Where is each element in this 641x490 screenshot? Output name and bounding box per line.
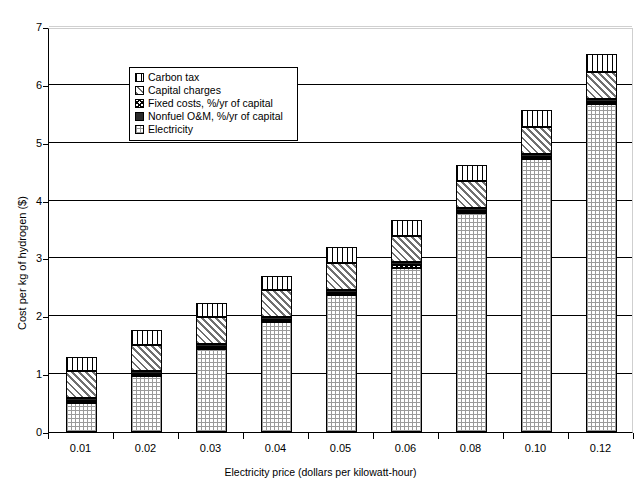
legend-item: Nonfuel O&M, %/yr of capital <box>135 110 293 122</box>
bar-segment <box>456 165 487 182</box>
bar-segment <box>196 303 227 317</box>
bar-segment <box>586 102 617 104</box>
legend-swatch-carbon <box>135 73 144 82</box>
bar-segment <box>586 99 617 102</box>
y-tick-label: 4 <box>8 196 42 207</box>
bar-segment <box>456 211 487 213</box>
x-axis-title: Electricity price (dollars per kilowatt-… <box>0 466 641 478</box>
x-tick-mark <box>568 433 569 439</box>
x-tick-label: 0.03 <box>181 442 241 454</box>
y-tick-label: 0 <box>8 427 42 438</box>
bar-segment <box>586 54 617 72</box>
bar-segment <box>521 110 552 127</box>
x-tick-label: 0.06 <box>376 442 436 454</box>
bar-segment <box>131 330 162 344</box>
bar-segment <box>391 262 422 265</box>
bar-segment <box>131 374 162 376</box>
y-tick-label: 5 <box>8 138 42 149</box>
bar-segment <box>196 347 227 349</box>
x-tick-label: 0.08 <box>441 442 501 454</box>
bar-segment <box>196 317 227 344</box>
bar-segment <box>66 357 97 371</box>
bar-segment <box>261 320 292 322</box>
legend-item: Carbon tax <box>135 71 293 83</box>
legend-label: Fixed costs, %/yr of capital <box>148 98 273 109</box>
bar-segment <box>196 349 227 432</box>
bar-segment <box>586 72 617 99</box>
bar-segment <box>261 322 292 432</box>
legend-swatch-capital <box>135 86 144 95</box>
x-tick-mark <box>48 433 49 439</box>
legend-item: Electricity <box>135 123 293 135</box>
y-tick-label: 3 <box>8 253 42 264</box>
bar-segment <box>456 208 487 211</box>
bar-segment <box>521 157 552 159</box>
legend-label: Nonfuel O&M, %/yr of capital <box>148 111 283 122</box>
bar-segment <box>66 371 97 398</box>
x-tick-label: 0.12 <box>571 442 631 454</box>
gridline <box>49 26 632 27</box>
x-tick-label: 0.05 <box>311 442 371 454</box>
bar-segment <box>131 345 162 372</box>
x-tick-mark <box>243 433 244 439</box>
x-tick-label: 0.04 <box>246 442 306 454</box>
bar-segment <box>456 213 487 432</box>
x-tick-mark <box>308 433 309 439</box>
bar-segment <box>66 398 97 401</box>
y-tick-label: 7 <box>8 22 42 33</box>
x-tick-mark <box>438 433 439 439</box>
legend-label: Electricity <box>148 124 193 135</box>
x-tick-mark <box>503 433 504 439</box>
bar-segment <box>66 401 97 403</box>
x-tick-mark <box>113 433 114 439</box>
bar-segment <box>261 276 292 290</box>
bar-segment <box>391 236 422 263</box>
x-tick-mark <box>373 433 374 439</box>
bar-segment <box>521 159 552 432</box>
x-tick-label: 0.10 <box>506 442 566 454</box>
bar-segment <box>131 376 162 432</box>
bar-segment <box>586 104 617 432</box>
legend-label: Capital charges <box>148 85 221 96</box>
x-tick-label: 0.01 <box>51 442 111 454</box>
bar-segment <box>326 247 357 263</box>
bar-segment <box>326 290 357 293</box>
bar-segment <box>391 265 422 267</box>
legend-swatch-electricity <box>135 125 144 134</box>
plot-area: Carbon taxCapital chargesFixed costs, %/… <box>48 28 633 433</box>
bar-segment <box>391 220 422 236</box>
bar-segment <box>196 344 227 347</box>
bar-segment <box>456 181 487 208</box>
bar-segment <box>326 295 357 432</box>
legend-label: Carbon tax <box>148 72 199 83</box>
bar-segment <box>326 263 357 290</box>
bar-segment <box>391 268 422 432</box>
x-tick-label: 0.02 <box>116 442 176 454</box>
bar-segment <box>66 403 97 432</box>
bar-segment <box>521 127 552 154</box>
bar-segment <box>261 290 292 317</box>
bar-segment <box>521 154 552 157</box>
legend-item: Capital charges <box>135 84 293 96</box>
y-tick-label: 2 <box>8 311 42 322</box>
bar-segment <box>261 317 292 320</box>
y-tick-label: 6 <box>8 80 42 91</box>
legend: Carbon taxCapital chargesFixed costs, %/… <box>129 67 298 141</box>
legend-swatch-nonfuel <box>135 112 144 121</box>
x-tick-mark <box>633 433 634 439</box>
bar-segment <box>131 371 162 374</box>
legend-item: Fixed costs, %/yr of capital <box>135 97 293 109</box>
stacked-bar-chart: Cost per kg of hydrogen ($) 01234567 Car… <box>0 0 641 490</box>
y-tick-label: 1 <box>8 369 42 380</box>
bar-segment <box>326 293 357 295</box>
x-tick-mark <box>178 433 179 439</box>
legend-swatch-fixed <box>135 99 144 108</box>
